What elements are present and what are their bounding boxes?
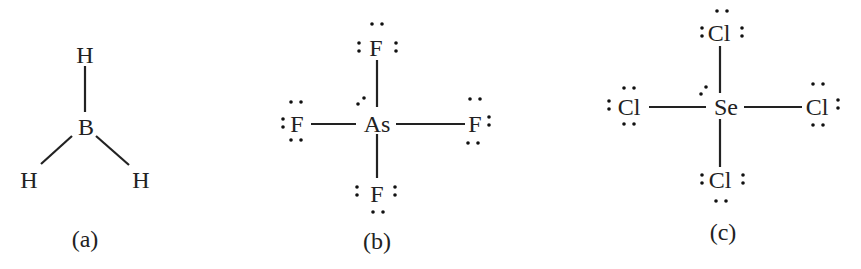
bond-b-h-left	[41, 136, 72, 164]
atom-f-right: F	[468, 111, 481, 137]
structure-b: F F As F F (b)	[281, 22, 491, 254]
lone-pair-se	[699, 85, 708, 96]
lone-pair-as	[356, 96, 366, 106]
structure-label-a: (a)	[72, 226, 99, 252]
atom-h-left: H	[20, 167, 37, 193]
structure-label-b: (b)	[363, 228, 391, 254]
atom-cl-bottom: Cl	[709, 167, 732, 193]
bond-b-h-right	[96, 136, 129, 165]
atom-as-central: As	[364, 111, 391, 137]
structure-c: Cl Cl Se Cl Cl	[607, 9, 840, 245]
atom-cl-top: Cl	[708, 20, 731, 46]
lewis-structures-figure: H B H H (a) F F As F	[0, 0, 861, 269]
atom-cl-left: Cl	[618, 94, 641, 120]
atom-b-central: B	[78, 114, 94, 140]
atom-cl-right: Cl	[806, 94, 829, 120]
structure-label-c: (c)	[710, 219, 737, 245]
atom-f-bottom: F	[370, 181, 383, 207]
atom-f-left: F	[290, 111, 303, 137]
atom-f-top: F	[369, 35, 382, 61]
structure-a: H B H H (a)	[20, 42, 149, 252]
atom-h-top: H	[76, 42, 93, 68]
atom-h-right: H	[132, 167, 149, 193]
atom-se-central: Se	[714, 94, 738, 120]
